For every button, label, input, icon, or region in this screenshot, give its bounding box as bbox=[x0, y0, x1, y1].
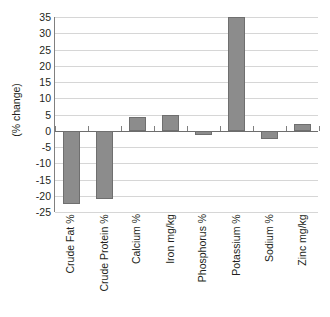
bar bbox=[195, 131, 213, 135]
y-tick-label: -10 bbox=[8, 157, 54, 169]
x-axis-tick bbox=[187, 126, 188, 131]
gridline bbox=[55, 196, 318, 197]
x-tick-label: Calcium % bbox=[131, 214, 143, 264]
bar bbox=[228, 17, 246, 131]
zero-line bbox=[55, 131, 318, 132]
y-tick-label: 0 bbox=[8, 125, 54, 137]
x-label-slot: Calcium % bbox=[120, 214, 153, 317]
y-axis-tick-labels: 35302520151050-5-10-15-20-25 bbox=[4, 0, 54, 317]
gridline bbox=[55, 180, 318, 181]
x-label-slot: Sodium % bbox=[252, 214, 285, 317]
gridline bbox=[55, 33, 318, 34]
x-axis-tick bbox=[88, 126, 89, 131]
y-tick-label: 10 bbox=[8, 92, 54, 104]
gridline bbox=[55, 115, 318, 116]
x-tick-label: Crude Protein % bbox=[98, 214, 110, 291]
gridline bbox=[55, 163, 318, 164]
y-tick-label: -15 bbox=[8, 174, 54, 186]
y-tick-label: 20 bbox=[8, 60, 54, 72]
x-axis-tick bbox=[220, 126, 221, 131]
bar bbox=[129, 117, 147, 131]
bar-chart: (% change) 35302520151050-5-10-15-20-25 … bbox=[0, 0, 330, 317]
plot-area bbox=[54, 17, 318, 212]
gridline bbox=[55, 147, 318, 148]
y-tick-label: 30 bbox=[8, 27, 54, 39]
x-tick-label: Zinc mg/kg bbox=[296, 214, 308, 265]
bar bbox=[63, 131, 81, 204]
gridline bbox=[55, 98, 318, 99]
x-axis-tick bbox=[121, 126, 122, 131]
x-axis-tick bbox=[286, 126, 287, 131]
y-tick-label: 15 bbox=[8, 76, 54, 88]
y-tick-label: 5 bbox=[8, 109, 54, 121]
y-tick-label: 25 bbox=[8, 44, 54, 56]
x-label-slot: Phosphorus % bbox=[186, 214, 219, 317]
x-label-slot: Potassium % bbox=[219, 214, 252, 317]
x-axis-tick bbox=[154, 126, 155, 131]
gridline bbox=[55, 17, 318, 18]
gridline bbox=[55, 212, 318, 213]
x-tick-label: Crude Fat % bbox=[65, 214, 77, 273]
bar bbox=[162, 115, 180, 131]
x-label-slot: Crude Protein % bbox=[87, 214, 120, 317]
y-tick-label: -20 bbox=[8, 190, 54, 202]
x-axis-tick bbox=[55, 126, 56, 131]
x-axis-tick bbox=[319, 126, 320, 131]
x-tick-label: Sodium % bbox=[263, 214, 275, 262]
x-tick-label: Potassium % bbox=[230, 214, 242, 275]
x-axis-tick bbox=[253, 126, 254, 131]
x-tick-label: Iron mg/kg bbox=[164, 214, 176, 264]
bar bbox=[96, 131, 114, 199]
gridline bbox=[55, 50, 318, 51]
x-label-slot: Zinc mg/kg bbox=[285, 214, 318, 317]
x-axis-tick-labels: Crude Fat %Crude Protein %Calcium %Iron … bbox=[54, 214, 318, 317]
x-label-slot: Iron mg/kg bbox=[153, 214, 186, 317]
y-tick-label: -5 bbox=[8, 141, 54, 153]
x-label-slot: Crude Fat % bbox=[54, 214, 87, 317]
y-tick-label: 35 bbox=[8, 11, 54, 23]
bar bbox=[294, 124, 312, 131]
gridline bbox=[55, 66, 318, 67]
y-tick-label: -25 bbox=[8, 206, 54, 218]
gridline bbox=[55, 82, 318, 83]
x-tick-label: Phosphorus % bbox=[197, 214, 209, 282]
bar bbox=[261, 131, 279, 139]
